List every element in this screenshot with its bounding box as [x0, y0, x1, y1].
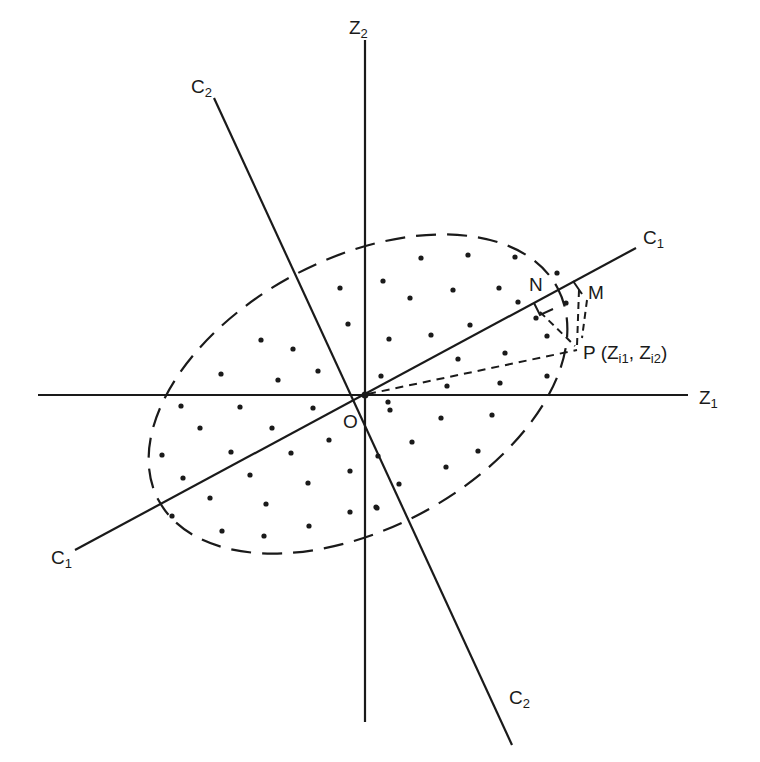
scatter-dot — [219, 528, 224, 533]
scatter-dot — [237, 404, 242, 409]
scatter-dot — [347, 468, 352, 473]
scatter-dot — [228, 449, 233, 454]
scatter-dot — [375, 453, 380, 458]
scatter-dot — [428, 332, 433, 337]
scatter-dot — [290, 346, 295, 351]
scatter-dot — [275, 377, 280, 382]
scatter-dot — [310, 405, 315, 410]
scatter-dot — [563, 300, 568, 305]
scatter-dot — [465, 252, 470, 257]
c2-bottom-label: C2 — [509, 688, 530, 710]
scatter-dot — [263, 501, 268, 506]
scatter-dot — [345, 321, 350, 326]
scatter-dot — [467, 322, 472, 327]
mp-dashed-line-2 — [582, 300, 587, 338]
scatter-dot — [178, 403, 183, 408]
right-angle-marker — [534, 303, 553, 315]
c1-top-label: C1 — [643, 228, 664, 250]
scatter-dot — [159, 452, 164, 457]
scatter-dot — [409, 439, 414, 444]
scatter-dot — [396, 481, 401, 486]
scatter-dot — [169, 513, 174, 518]
scatter-dot — [444, 383, 449, 388]
scatter-dot — [512, 254, 517, 259]
scatter-dot — [554, 270, 559, 275]
scatter-dot — [544, 333, 549, 338]
scatter-dot — [502, 350, 507, 355]
scatter-dot — [544, 373, 549, 378]
scatter-dot — [489, 412, 494, 417]
scatter-dot — [438, 415, 443, 420]
point-n-label: N — [529, 275, 543, 294]
scatter-dot — [247, 472, 252, 477]
diagram-canvas — [0, 0, 760, 762]
scatter-dot — [443, 464, 448, 469]
scatter-dot — [269, 425, 274, 430]
scatter-dot — [347, 509, 352, 514]
scatter-dot — [337, 285, 342, 290]
scatter-dot — [180, 475, 185, 480]
scatter-dot — [306, 523, 311, 528]
scatter-dot — [374, 505, 379, 510]
c2-top-label: C2 — [191, 77, 212, 99]
scatter-dot — [475, 448, 480, 453]
scatter-dot — [385, 399, 390, 404]
m-tick — [573, 281, 582, 294]
scatter-dot — [378, 373, 383, 378]
scatter-dot — [380, 278, 385, 283]
point-p-coordinates: (Zi1, Zi2) — [601, 342, 668, 363]
scatter-dot — [386, 336, 391, 341]
c1-bottom-label: C1 — [51, 548, 72, 570]
scatter-dot — [261, 533, 266, 538]
scatter-dot — [407, 295, 412, 300]
scatter-dot — [218, 371, 223, 376]
z2-axis-label: Z2 — [349, 18, 368, 40]
scatter-dot — [450, 287, 455, 292]
np-dashed-line — [540, 312, 575, 346]
point-p-label: P (Zi1, Zi2) — [583, 343, 667, 365]
c2-axis-line — [214, 98, 512, 745]
scatter-dot — [326, 437, 331, 442]
scatter-dot — [533, 315, 538, 320]
z1-axis-label: Z1 — [699, 388, 718, 410]
scatter-dot — [497, 380, 502, 385]
scatter-dot — [197, 425, 202, 430]
op-dashed-line — [368, 350, 577, 394]
projection-construction — [368, 281, 587, 394]
origin-point — [362, 392, 369, 399]
point-m-label: M — [588, 283, 604, 302]
scatter-dot — [387, 407, 392, 412]
scatter-dot — [418, 255, 423, 260]
scatter-dot — [207, 495, 212, 500]
mp-dashed-line-1 — [577, 290, 579, 346]
origin-label: O — [343, 412, 358, 431]
scatter-dot — [496, 285, 501, 290]
c1-axis-line — [75, 248, 636, 550]
scatter-dot — [515, 299, 520, 304]
scatter-dot — [258, 337, 263, 342]
scatter-dot — [455, 356, 460, 361]
scatter-dot — [288, 450, 293, 455]
scatter-dot — [305, 480, 310, 485]
scatter-dot — [315, 368, 320, 373]
